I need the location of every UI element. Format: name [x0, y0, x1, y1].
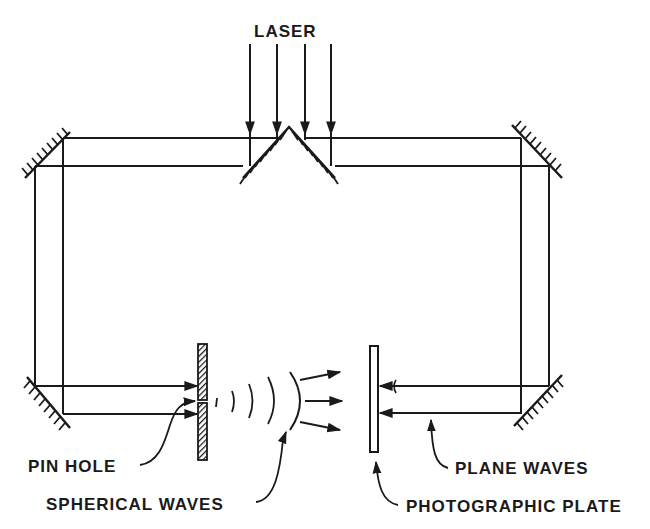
pin-hole-plate [198, 344, 207, 460]
leader-lines [140, 401, 448, 505]
object-beams [35, 386, 197, 414]
photographic-plate-label: PHOTOGRAPHIC PLATE [406, 497, 622, 516]
spherical-waves [216, 372, 342, 430]
plane-waves-label: PLANE WAVES [455, 459, 588, 478]
photographic-plate [370, 346, 378, 452]
top-beams [35, 138, 549, 166]
laser-beams [250, 44, 331, 166]
pin-hole-label: PIN HOLE [28, 457, 116, 476]
holography-diagram: LASER PIN HOLE SPHERICAL WAVES PLANE WAV… [0, 0, 650, 529]
mirror-top-right [512, 121, 562, 178]
laser-label: LASER [254, 22, 317, 41]
reference-beams [380, 380, 549, 413]
spherical-waves-label: SPHERICAL WAVES [46, 495, 224, 514]
vertical-beams [35, 138, 549, 414]
v-mirror [240, 127, 338, 184]
